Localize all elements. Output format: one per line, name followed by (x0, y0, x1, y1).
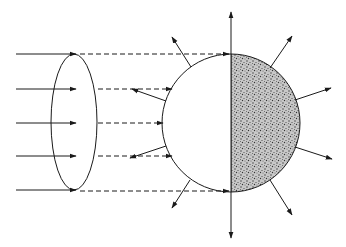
aperture-ellipse (51, 54, 97, 190)
shaded-hemisphere (231, 54, 300, 192)
lit-hemisphere (162, 54, 231, 192)
diagram-canvas (0, 0, 346, 247)
incoming-rays (16, 54, 76, 190)
